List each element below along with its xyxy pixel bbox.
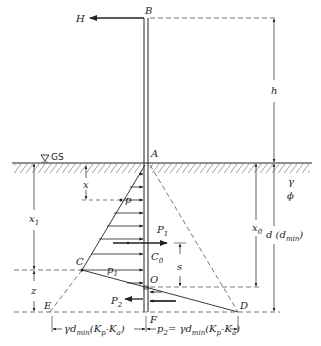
label-d-min: d (dmin) [266,229,303,243]
label-phi: ϕ [287,190,294,201]
label-x1: x1 [29,213,39,227]
ground-surface-marker-icon [41,155,49,162]
label-p: p [125,194,132,205]
label-b: B [144,5,152,16]
passive-pressure-line [150,165,238,312]
label-pressure-left: γdmin(Kp-Ka) [64,323,125,337]
label-gs: GS [51,152,64,162]
label-d: D [239,300,248,311]
label-o: O [150,274,158,285]
label-x0: x0 [252,222,263,236]
ground-surface [12,163,312,173]
label-z: z [30,285,37,296]
label-gamma: γ [288,176,294,187]
label-e: E [43,300,52,311]
label-p1: p1 [107,264,118,278]
cantilever-sheet-pile-diagram: H B h A GS γ ϕ x [0,0,321,346]
label-c: C [76,256,84,267]
label-h-height: h [271,85,277,96]
label-h-force: H [75,13,85,24]
label-x: x [83,179,89,190]
label-p2-force: P2 [110,295,123,309]
label-c0: C0 [151,251,164,265]
label-pressure-p2: p2= γdmin(Kp-Ka) [157,323,240,337]
label-a: A [150,148,158,159]
label-p1-force: P1 [156,224,168,238]
label-s: s [177,261,182,272]
